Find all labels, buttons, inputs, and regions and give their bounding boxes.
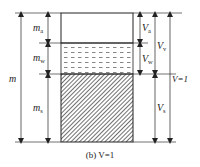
label-ms: ms: [33, 102, 43, 114]
solid-phase: [61, 74, 133, 142]
diagram-canvas: m ma mw ms Va Vw Vv Vs V=1 (b) V=1: [0, 0, 200, 167]
label-ma: ma: [33, 22, 43, 34]
label-mw: mw: [33, 52, 45, 64]
water-phase: [61, 43, 133, 74]
air-phase: [61, 13, 133, 43]
label-vw: Vw: [142, 53, 153, 65]
left-dimension-arrows: [21, 14, 48, 141]
label-vv: Vv: [157, 40, 167, 52]
phase-column: [61, 13, 133, 142]
label-v-total: V=1: [172, 74, 188, 84]
label-vs: Vs: [157, 102, 166, 114]
label-m: m: [9, 73, 16, 84]
soil-phase-diagram: m ma mw ms Va Vw Vv Vs V=1 (b) V=1: [0, 0, 200, 167]
caption: (b) V=1: [86, 150, 115, 160]
right-dimension-arrows: [140, 14, 170, 141]
label-va: Va: [142, 22, 151, 34]
